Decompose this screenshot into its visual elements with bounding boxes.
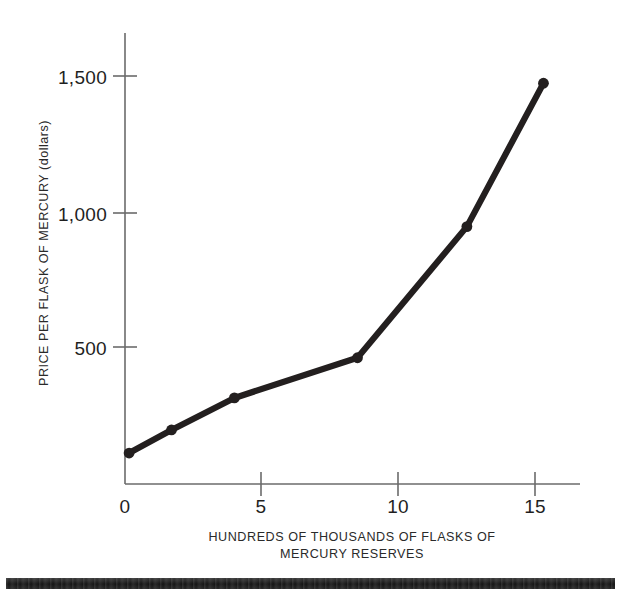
y-axis-title: PRICE PER FLASK OF MERCURY (dollars)	[37, 120, 51, 386]
x-tick-label-15: 15	[524, 496, 546, 517]
data-point	[229, 393, 240, 404]
data-point	[166, 425, 177, 436]
x-axis-title-line1: HUNDREDS OF THOUSANDS OF FLASKS OF	[208, 530, 495, 544]
x-tick-label-5: 5	[256, 496, 267, 517]
footer-decorative-bar	[6, 578, 615, 589]
y-tick-label-1500: 1,500	[58, 67, 107, 88]
x-tick-label-0: 0	[120, 496, 131, 517]
price-reserve-curve	[129, 83, 543, 453]
x-axis-title-line2: MERCURY RESERVES	[280, 547, 424, 561]
data-point	[124, 448, 135, 459]
y-tick-label-500: 500	[74, 338, 107, 359]
data-point	[538, 78, 549, 89]
data-point-group	[124, 78, 549, 459]
y-tick-label-1000: 1,000	[58, 204, 107, 225]
mercury-price-reserves-chart: 1,500 1,000 500 0 5 10 15 HUNDREDS OF TH…	[0, 0, 624, 590]
x-tick-label-10: 10	[387, 496, 409, 517]
data-point	[352, 352, 363, 363]
chart-canvas: 1,500 1,000 500 0 5 10 15 HUNDREDS OF TH…	[0, 0, 624, 590]
data-point	[461, 221, 472, 232]
